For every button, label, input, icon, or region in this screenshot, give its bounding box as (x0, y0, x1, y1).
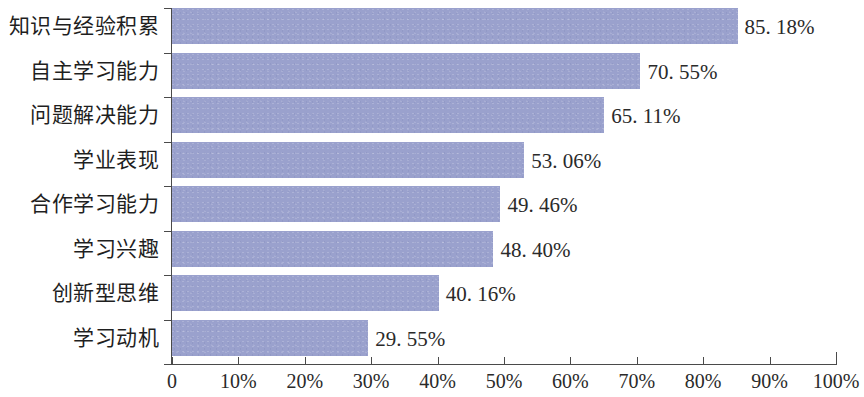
category-label: 学习动机 (0, 320, 159, 356)
y-axis-tick (164, 97, 172, 98)
bar-value-label: 65. 11% (604, 97, 680, 133)
bar-value-label: 70. 55% (640, 53, 717, 89)
bar (172, 231, 493, 267)
bar-row: 学业表现53. 06% (0, 142, 859, 187)
category-label: 创新型思维 (0, 275, 159, 311)
x-axis-tick (238, 357, 239, 364)
x-axis-tick (770, 357, 771, 364)
category-label: 学习兴趣 (0, 231, 159, 267)
x-axis-tick (305, 357, 306, 364)
bar-row: 学习兴趣48. 40% (0, 231, 859, 276)
bar-value-label: 29. 55% (368, 320, 445, 356)
bar (172, 142, 524, 178)
bar-row: 合作学习能力49. 46% (0, 186, 859, 231)
bar-row: 自主学习能力70. 55% (0, 53, 859, 98)
y-axis-tick (164, 275, 172, 276)
bar (172, 53, 640, 89)
category-label: 问题解决能力 (0, 97, 159, 133)
bar-row: 学习动机29. 55% (0, 320, 859, 365)
y-axis-tick (164, 8, 172, 9)
x-axis-tick (637, 357, 638, 364)
bar (172, 320, 368, 356)
bar-row: 创新型思维40. 16% (0, 275, 859, 320)
x-axis-tick (703, 357, 704, 364)
x-axis-tick-label: 100% (796, 368, 864, 394)
category-label: 知识与经验积累 (0, 8, 159, 44)
bar-value-label: 40. 16% (439, 275, 516, 311)
y-axis-tick (164, 53, 172, 54)
bar (172, 186, 500, 222)
x-axis-tick (570, 357, 571, 364)
bar (172, 8, 738, 44)
y-axis-tick (164, 231, 172, 232)
category-label: 学业表现 (0, 142, 159, 178)
bar-row: 知识与经验积累85. 18% (0, 8, 859, 53)
bar (172, 97, 604, 133)
bar-row: 问题解决能力65. 11% (0, 97, 859, 142)
bar-value-label: 53. 06% (524, 142, 601, 178)
y-axis-tick (164, 364, 172, 365)
category-label: 自主学习能力 (0, 53, 159, 89)
y-axis-tick (164, 142, 172, 143)
category-label: 合作学习能力 (0, 186, 159, 222)
x-axis-line (171, 364, 837, 365)
bar-value-label: 49. 46% (500, 186, 577, 222)
x-axis-tick (836, 357, 837, 364)
x-axis-tick (371, 357, 372, 364)
x-axis-tick (172, 357, 173, 364)
y-axis-tick (164, 186, 172, 187)
x-axis-tick (438, 357, 439, 364)
bar-value-label: 48. 40% (493, 231, 570, 267)
x-axis-tick (504, 357, 505, 364)
bar-value-label: 85. 18% (738, 8, 815, 44)
y-axis-tick (164, 320, 172, 321)
bar (172, 275, 439, 311)
